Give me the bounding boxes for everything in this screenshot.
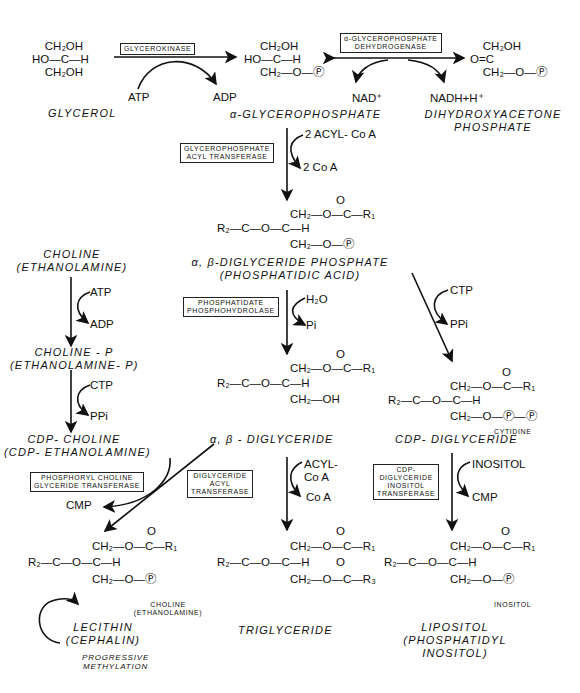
h2o-pi-curve [293,298,305,325]
cofactor-cmp-1: CMP [66,499,92,511]
pa-chain-2: R₂—C—O—C—H [217,222,310,235]
enzyme-glycerokinase: GLYCEROKINASE [120,43,195,55]
cofactor-adp-2: ADP [90,318,114,330]
lec-chain-1: CH₂—O—C—R₁ [92,540,177,553]
cofactor-ctp-1: CTP [90,379,113,391]
triglyceride-label: TRIGLYCERIDE [238,624,333,637]
cofactor-atp: ATP [128,91,150,103]
cofactor-ctp-2: CTP [450,284,473,296]
lip-phosphate: CH₂—O—Ⓟ [450,573,514,586]
cofactor-cmp-2: CMP [472,491,498,503]
choline-sublabel: CHOLINE (ETHANOLAMINE) [118,601,218,617]
lip-chain-2: R₂—C—O—C—H [384,556,477,569]
acyl-coa-curve [291,135,303,168]
tg-chain-3: CH₂—O—C—R₃ [290,573,376,586]
lec-carbonyl-o: O [147,525,156,538]
lip-chain-1: CH₂—O—C—R₁ [450,540,535,553]
ctp-ppi-curve-1 [78,385,90,415]
cdp-choline-label: CDP- CHOLINE (CDP- ETHANOLAMINE) [4,433,144,459]
choline-label: CHOLINE (ETHANOLAMINE) [12,248,132,274]
nadh-curve [408,60,444,82]
pa-phosphate: CH₂—O—Ⓟ [290,238,354,251]
choline-p-label: CHOLINE - P (ETHANOLAMINE- P) [10,346,138,372]
nad-curve [356,60,388,82]
inositol-cmp-curve [458,462,470,496]
cofactor-inositol: INOSITOL [472,458,525,470]
atp-adp-curve-2 [78,292,90,323]
lip-carbonyl-o: O [501,525,510,538]
inositol-sublabel: INOSITOL [494,601,531,609]
glycerol-structure: CH₂OH HO—C—H CH₂OH [32,40,89,79]
tg-chain-1: CH₂—O—C—R₁ [290,540,375,553]
cofactor-acyl-coa-2: Co A [304,471,329,483]
tg-chain-2: R₂—C—O—C—H [217,556,310,569]
enzyme-dg-acyltransferase: DIGLYCERIDE ACYL TRANSFERASE [187,470,253,498]
pa-carbonyl-o: O [336,194,345,207]
cofactor-h2o: H₂O [306,293,328,305]
enzyme-phosphohydrolase: PHOSPHATIDATE PHOSPHOHYDROLASE [183,297,279,317]
cofactor-adp: ADP [213,91,237,103]
cofactor-coa-2: Co A [306,491,331,503]
cdp-dg-carbonyl-o: O [502,366,511,379]
diglyceride-label: α, β - DIGLYCERIDE [210,433,334,446]
cdp-dg-arrow [412,273,452,361]
lec-phosphate: CH₂—O—Ⓟ [92,573,156,586]
lipositol-label: LIPOSITOL (PHOSPHATIDYL INOSITOL) [400,621,510,660]
cofactor-ppi-1: PPi [90,410,108,422]
enzyme-phosphoryl-choline-transferase: PHOSPHORYL CHOLINE GLYCERIDE TRANSFERASE [30,472,144,492]
cofactor-nad: NAD⁺ [352,91,382,105]
atp-adp-curve [138,62,216,89]
cofactor-acyl-coa: 2 ACYL- Co A [305,128,376,140]
glycerol-label: GLYCEROL [48,107,117,120]
cdp-dg-chain-2: R₂—C—O—C—H [388,394,481,407]
cofactor-pi: Pi [306,319,316,331]
cofactor-ppi-2: PPi [450,318,468,330]
cofactor-coa: 2 Co A [303,161,338,173]
tg-carbonyl-o: O [336,525,345,538]
cdp-dg-phosphates: CH₂—O—Ⓟ—Ⓟ [450,410,537,423]
enzyme-gp-dehydrogenase: α-GLYCEROPHOSPHATE DEHYDROGENASE [340,33,442,53]
enzyme-inositol-transferase: CDP- DIGLYCERIDE INOSITOL TRANSFERASE [373,464,439,500]
phosphatidic-acid-label: α, β-DIGLYCERIDE PHOSPHATE (PHOSPHATIDIC… [170,256,410,282]
methylation-label: PROGRESSIVE METHYLATION [82,653,149,671]
cofactor-nadh: NADH+H⁺ [430,91,484,105]
lec-chain-2: R₂—C—O—C—H [28,556,121,569]
alpha-glycerophosphate-structure: CH₂OH HO—C—H CH₂—O—Ⓟ [244,40,324,79]
cofactor-atp-2: ATP [90,286,112,298]
cdp-diglyceride-label: CDP- DIGLYCERIDE [395,433,518,446]
pa-chain-1: CH₂—O—C—R₁ [290,208,375,221]
cofactor-acyl: ACYL- [304,458,338,470]
alpha-glycerophosphate-label: α-GLYCEROPHOSPHATE [230,108,381,121]
dhap-structure: CH₂OH O=C CH₂—O—Ⓟ [470,40,547,79]
enzyme-gp-acyltransferase: GLYCEROPHOSPHATE ACYL TRANSFERASE [180,143,274,163]
dhap-label: DIHYDROXYACETONE PHOSPHATE [408,108,578,134]
cdp-dg-chain-1: CH₂—O—C—R₁ [450,380,535,393]
dg-hydroxyl: CH₂—OH [290,393,340,406]
ctp-ppi-curve-2 [434,290,448,324]
tg-carbonyl-o-3: O [336,556,345,569]
lecithin-label: LECITHIN (CEPHALIN) [58,621,148,647]
dg-carbonyl-o: O [336,348,345,361]
dg-chain-2: R₂—C—O—C—H [217,377,310,390]
acyl-coa-curve-2 [291,462,302,496]
dg-chain-1: CH₂—O—C—R₁ [290,362,375,375]
